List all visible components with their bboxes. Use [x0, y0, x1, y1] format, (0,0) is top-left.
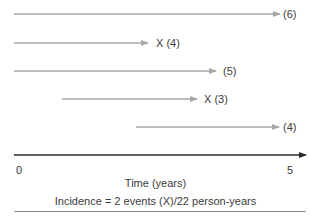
- subject-5-label: (4): [283, 121, 296, 133]
- axis-title: Time (years): [0, 177, 311, 189]
- subject-3-label: (5): [223, 65, 236, 77]
- figure-caption-cutoff: [14, 215, 114, 219]
- caption-divider: [14, 211, 306, 212]
- axis-tick-5: 5: [287, 164, 293, 176]
- axis-tick-0: 0: [16, 164, 22, 176]
- person-time-diagram: (6) X (4) (5) X (3) (4) 0 5 Time (years)…: [0, 0, 311, 219]
- incidence-formula: Incidence = 2 events (X)/22 person-years: [0, 195, 311, 207]
- subject-1-label: (6): [283, 8, 296, 20]
- subject-4-label: X (3): [204, 93, 228, 105]
- subject-2-label: X (4): [156, 37, 180, 49]
